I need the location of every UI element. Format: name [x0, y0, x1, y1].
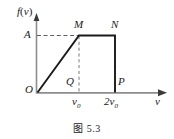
- x-tick-label-2v0-subscript: 0: [114, 102, 118, 110]
- x-axis-label: v: [155, 96, 160, 107]
- y-tick-label-A: A: [24, 29, 31, 40]
- x-axis: [37, 89, 168, 96]
- x-tick-label-v0: v0: [72, 96, 80, 110]
- point-label-n: N: [111, 19, 118, 30]
- y-axis: [34, 13, 40, 94]
- point-label-m: M: [74, 19, 83, 30]
- x-tick-label-2v0: 2v0: [104, 96, 118, 110]
- x-tick-label-v0-subscript: 0: [77, 102, 81, 110]
- figure-caption: 图 5.3: [0, 120, 174, 135]
- curve-f-of-v: [38, 36, 116, 93]
- point-label-q: Q: [66, 76, 74, 87]
- point-label-p: P: [118, 76, 125, 87]
- y-axis-label-paren-close: ): [29, 5, 33, 17]
- origin-label: O: [25, 84, 33, 95]
- plot-area: [0, 0, 174, 139]
- x-tick-label-2v0-base: 2v: [104, 95, 114, 107]
- y-axis-label: f(v): [17, 6, 32, 17]
- figure-container: f(v) A M N Q P O v0 2v0 v 图 5.3: [0, 0, 174, 139]
